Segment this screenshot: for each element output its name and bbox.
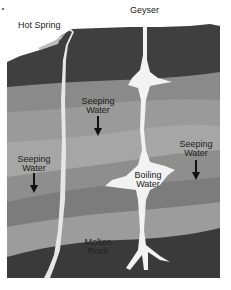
- label-line: Rock: [78, 247, 118, 256]
- label-hot-spring: Hot Spring: [18, 21, 61, 30]
- label-line: Water: [128, 180, 168, 189]
- label-seeping-water-1: Seeping Water: [78, 97, 118, 115]
- label-boiling-water: Boiling Water: [128, 171, 168, 189]
- label-line: Water: [176, 149, 216, 158]
- label-seeping-water-2: Seeping Water: [14, 155, 54, 173]
- label-line: Water: [14, 164, 54, 173]
- label-seeping-water-3: Seeping Water: [176, 140, 216, 158]
- label-molten-rock: Molten Rock: [78, 238, 118, 256]
- label-line: Water: [78, 106, 118, 115]
- label-geyser: Geyser: [130, 6, 159, 15]
